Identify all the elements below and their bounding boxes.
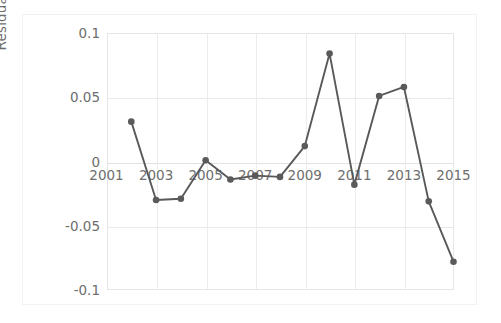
data-series-layer	[0, 0, 501, 323]
data-point-2009	[301, 143, 308, 150]
data-point-2007	[252, 172, 259, 179]
data-point-2006	[227, 176, 234, 183]
data-point-2013	[401, 84, 408, 91]
data-point-2011	[351, 181, 358, 188]
residuals-markers	[128, 50, 457, 265]
data-point-2010	[326, 50, 333, 57]
data-point-2005	[202, 157, 209, 164]
data-point-2008	[277, 174, 284, 181]
residuals-line-chart: Residuals (logits) 0.1 0.05 0 -0.05 -0.1…	[0, 0, 501, 323]
data-point-2015	[450, 258, 457, 265]
data-point-2012	[376, 93, 383, 100]
data-point-2003	[153, 197, 160, 204]
data-point-2004	[178, 195, 185, 202]
data-point-2002	[128, 118, 135, 125]
data-point-2014	[425, 198, 432, 205]
